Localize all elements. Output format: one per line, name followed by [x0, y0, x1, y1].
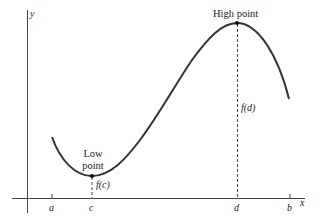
- diagram-canvas: [0, 0, 324, 218]
- x-axis-label: x: [300, 198, 304, 208]
- low-point-label-line1: Low: [78, 148, 108, 160]
- tick-label-d: d: [234, 203, 239, 213]
- fd-label: f(d): [241, 103, 255, 113]
- tick-label-c: c: [89, 203, 93, 213]
- high-point-marker: [235, 21, 239, 25]
- high-point-label: High point: [213, 9, 258, 20]
- low-point-label-line2: point: [78, 160, 108, 172]
- tick-label-a: a: [49, 203, 54, 213]
- y-axis-label: y: [30, 9, 34, 19]
- fc-label: f(c): [96, 180, 110, 190]
- low-point-marker: [90, 174, 94, 178]
- tick-label-b: b: [287, 203, 292, 213]
- low-point-label: Low point: [78, 148, 108, 172]
- extreme-value-diagram: y x a c d b Low point f(c) High point f(…: [0, 0, 324, 218]
